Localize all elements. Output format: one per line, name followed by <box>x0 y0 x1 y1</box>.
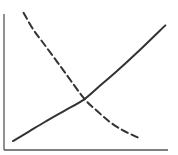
series-layer <box>13 13 165 141</box>
dashed-series-line <box>24 13 138 138</box>
chart <box>0 0 178 155</box>
solid-series-line <box>13 25 165 141</box>
